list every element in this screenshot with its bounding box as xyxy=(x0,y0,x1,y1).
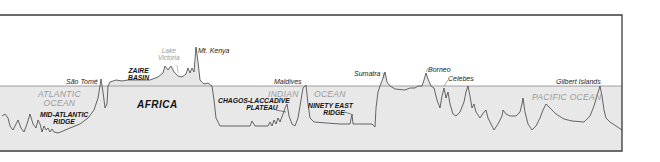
lake-victoria-leader xyxy=(177,65,178,73)
label-africa: AFRICA xyxy=(137,100,178,110)
label-borneo: Borneo xyxy=(428,66,451,73)
below-sea-level-band xyxy=(0,86,622,150)
lake-victoria-line2: Victoria xyxy=(158,55,180,62)
chagos-line2: PLATEAU xyxy=(218,105,278,112)
label-indian-ocean: OCEAN xyxy=(314,90,346,99)
label-sumatra: Sumatra xyxy=(354,70,380,77)
label-lake-victoria: Lake Victoria xyxy=(158,48,180,61)
label-mt-kenya: Mt. Kenya xyxy=(198,47,230,54)
label-zaire-basin: ZAIRE BASIN xyxy=(128,68,149,82)
label-celebes: Celebes xyxy=(448,75,474,82)
label-pacific-ocean: PACIFIC OCEAN xyxy=(532,93,601,102)
mid-atlantic-line2: RIDGE xyxy=(40,119,88,126)
atlantic-line2: OCEAN xyxy=(38,99,81,108)
label-sao-tome: São Tomé xyxy=(66,78,98,85)
label-mid-atlantic-ridge: MID-ATLANTIC RIDGE xyxy=(40,112,88,126)
label-gilbert-islands: Gilbert Islands xyxy=(556,78,601,85)
zaire-line2: BASIN xyxy=(128,75,149,82)
ninety-east-line2: RIDGE xyxy=(308,110,345,117)
label-ninety-east-ridge: NINETY EAST RIDGE xyxy=(308,103,353,117)
label-maldives: Maldives xyxy=(274,78,302,85)
label-atlantic-ocean: ATLANTIC OCEAN xyxy=(38,90,81,107)
label-chagos-laccadive-plateau: CHAGOS-LACCADIVE PLATEAU xyxy=(218,98,290,112)
